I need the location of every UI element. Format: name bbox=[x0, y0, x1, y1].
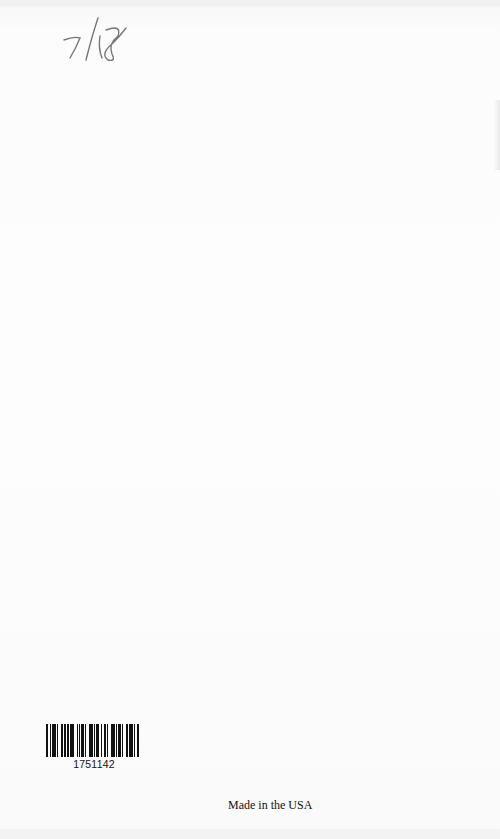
page-right-edge-shadow bbox=[494, 100, 500, 170]
barcode-number: 1751142 bbox=[46, 758, 142, 770]
page-bottom-edge bbox=[0, 829, 500, 839]
page-top-edge bbox=[0, 0, 500, 6]
book-back-page: 7/18 1751142 Made in the USA bbox=[0, 0, 500, 839]
barcode: 1751142 bbox=[46, 724, 142, 770]
barcode-bar bbox=[139, 724, 141, 757]
handwritten-note-icon bbox=[60, 14, 150, 64]
made-in-usa-label: Made in the USA bbox=[228, 798, 312, 813]
barcode-bars bbox=[46, 724, 142, 757]
